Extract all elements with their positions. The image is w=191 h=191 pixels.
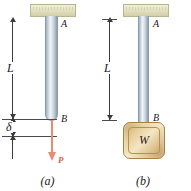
force-arrow-head-p — [48, 152, 56, 161]
rod-b — [138, 16, 149, 124]
weight-block: W — [123, 122, 165, 159]
point-label-b-top: A — [153, 19, 159, 29]
dimension-line-a-tail — [12, 137, 13, 159]
extension-line-b-top — [102, 19, 117, 20]
dimension-label-l-a: L — [6, 62, 15, 74]
force-label-p: P — [58, 156, 64, 165]
dimension-arrow-l-a-top — [10, 17, 16, 22]
extension-line-b-bottom — [102, 120, 117, 121]
dimension-label-delta-a: δ — [5, 121, 13, 133]
point-label-a-top: A — [61, 19, 67, 29]
axial-loading-figure: A B L δ P (a) A B — [0, 0, 191, 191]
panel-b: A B L W (b) — [95, 0, 191, 191]
rod-a — [45, 16, 58, 121]
panel-a: A B L δ P (a) — [0, 0, 95, 191]
dimension-arrow-a-tail — [10, 135, 16, 140]
caption-b: (b) — [95, 174, 191, 189]
point-label-a-bottom: B — [61, 114, 67, 124]
caption-a: (a) — [0, 174, 95, 189]
dimension-label-l-b: L — [103, 62, 112, 74]
weight-label-w: W — [128, 127, 160, 154]
force-arrow-shaft-p — [51, 120, 53, 154]
